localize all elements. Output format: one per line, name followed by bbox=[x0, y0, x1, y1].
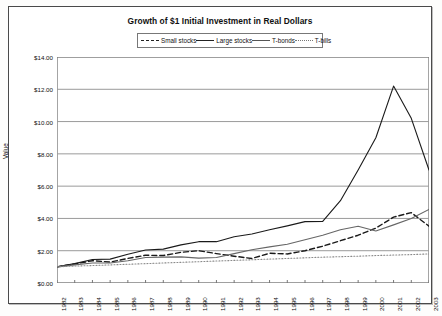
x-tick-label: 1991 bbox=[219, 297, 226, 311]
legend-line-dashed-icon bbox=[141, 38, 159, 43]
x-tick-label: 1983 bbox=[77, 297, 84, 311]
x-tick-label: 2003 bbox=[432, 297, 439, 311]
x-tick-label: 1995 bbox=[290, 297, 297, 311]
x-tick-label: 1992 bbox=[237, 297, 244, 311]
x-tick-label: 1987 bbox=[148, 297, 155, 311]
x-tick-label: 1994 bbox=[272, 297, 279, 311]
x-tick-label: 1984 bbox=[95, 297, 102, 311]
legend-label: T-bills bbox=[315, 37, 331, 44]
legend-label: T-bonds bbox=[272, 37, 295, 44]
chart-legend: Small stocks Large stocks T-bonds T-bill… bbox=[137, 33, 323, 48]
plot-svg bbox=[57, 57, 429, 283]
plot-area bbox=[57, 57, 429, 283]
legend-item-large-stocks: Large stocks bbox=[196, 37, 252, 44]
x-tick-label: 1989 bbox=[184, 297, 191, 311]
y-axis-tick-labels: $0.00$2.00$4.00$6.00$8.00$10.00$12.00$14… bbox=[17, 57, 55, 283]
x-axis-tick-labels: 1982198319841985198619871988198919901991… bbox=[57, 285, 429, 316]
x-tick-label: 1988 bbox=[166, 297, 173, 311]
y-tick-label: $10.00 bbox=[34, 118, 53, 125]
chart-title: Growth of $1 Initial Investment in Real … bbox=[9, 16, 431, 26]
x-tick-label: 1990 bbox=[201, 297, 208, 311]
y-tick-label: $4.00 bbox=[38, 215, 53, 222]
y-tick-label: $0.00 bbox=[38, 280, 53, 287]
x-tick-label: 1997 bbox=[325, 297, 332, 311]
x-tick-label: 1993 bbox=[254, 297, 261, 311]
x-tick-label: 1998 bbox=[343, 297, 350, 311]
legend-item-small-stocks: Small stocks bbox=[141, 37, 196, 44]
y-axis-title: Value bbox=[2, 143, 9, 159]
legend-item-t-bills: T-bills bbox=[295, 37, 331, 44]
x-tick-label: 2001 bbox=[396, 297, 403, 311]
x-tick-label: 2000 bbox=[378, 297, 385, 311]
y-tick-label: $6.00 bbox=[38, 183, 53, 190]
y-tick-label: $8.00 bbox=[38, 150, 53, 157]
chart-frame: Growth of $1 Initial Investment in Real … bbox=[8, 6, 432, 304]
y-tick-label: $12.00 bbox=[34, 86, 53, 93]
x-tick-label: 1982 bbox=[60, 297, 67, 311]
y-tick-label: $2.00 bbox=[38, 247, 53, 254]
x-tick-label: 2002 bbox=[414, 297, 421, 311]
legend-line-solid-icon bbox=[196, 38, 214, 43]
legend-line-dotted-icon bbox=[295, 38, 313, 43]
chart-screenshot: Growth of $1 Initial Investment in Real … bbox=[0, 0, 442, 316]
legend-line-solid-gray-icon bbox=[252, 38, 270, 43]
x-tick-label: 1999 bbox=[361, 297, 368, 311]
legend-label: Large stocks bbox=[216, 37, 252, 44]
x-tick-label: 1985 bbox=[113, 297, 120, 311]
x-tick-label: 1996 bbox=[308, 297, 315, 311]
legend-item-t-bonds: T-bonds bbox=[252, 37, 295, 44]
legend-label: Small stocks bbox=[161, 37, 196, 44]
x-tick-label: 1986 bbox=[130, 297, 137, 311]
y-tick-label: $14.00 bbox=[34, 54, 53, 61]
